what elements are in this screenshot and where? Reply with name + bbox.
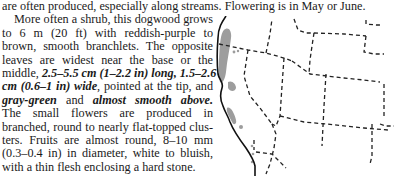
text-line: branched, round to nearly flat-topped cl… [2, 121, 213, 134]
text-run: ters. Fruits are almost round, 8–10 mm [2, 133, 213, 147]
text-line: with a thin flesh enclosing a hard stone… [2, 161, 213, 174]
text-line: gray-green and almost smooth above. [2, 94, 213, 107]
range-shading [219, 28, 254, 163]
text-run: to 6 m (20 ft) with reddish-purple to [2, 26, 213, 40]
text-run: More often a shrub, this dogwood grows [14, 12, 213, 26]
species-description: More often a shrub, this dogwood grows t… [2, 13, 213, 174]
text-run: The small flowers are produced in [2, 106, 213, 120]
key-trait: cm (0.6–1 in) wide [2, 79, 97, 93]
text-run: middle, [2, 66, 42, 80]
previous-paragraph-last-line: are often produced, especially along str… [2, 0, 411, 13]
key-trait: 2.5–5.5 cm (1–2.2 in) long, 1.5–2.6 [42, 66, 216, 80]
text-line: brown, smooth branchlets. The opposite [2, 40, 213, 53]
text-run: leaves are widest near the base or the [2, 53, 213, 67]
text-line: leaves are widest near the base or the [2, 54, 213, 67]
text-run: brown, smooth branchlets. The opposite [2, 39, 213, 53]
text-line: ters. Fruits are almost round, 8–10 mm [2, 134, 213, 147]
text-line: The small flowers are produced in [2, 107, 213, 120]
text-run: and [57, 93, 93, 107]
key-trait: gray-green [2, 93, 57, 107]
text-line: to 6 m (20 ft) with reddish-purple to [2, 27, 213, 40]
key-trait: almost smooth above. [93, 93, 213, 107]
text-line: More often a shrub, this dogwood grows [2, 13, 213, 26]
text-run: , pointed at the tip, and [97, 79, 213, 93]
state-borders [219, 19, 394, 174]
text-line: cm (0.6–1 in) wide, pointed at the tip, … [2, 80, 213, 93]
range-map [214, 16, 411, 178]
text-run: with a thin flesh enclosing a hard stone… [2, 160, 196, 174]
text-run: branched, round to nearly flat-topped cl… [2, 120, 213, 134]
text-line: middle, 2.5–5.5 cm (1–2.2 in) long, 1.5–… [2, 67, 213, 80]
text-run: (0.3–0.4 in) in diameter, white to bluis… [2, 146, 213, 160]
text-line: (0.3–0.4 in) in diameter, white to bluis… [2, 147, 213, 160]
